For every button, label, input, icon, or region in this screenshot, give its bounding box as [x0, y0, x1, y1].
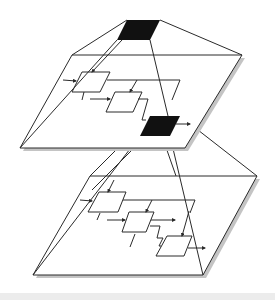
diagram-canvas: [0, 0, 275, 300]
upper-plane: [20, 55, 245, 151]
top-level-block: [117, 20, 160, 40]
footer-band: [0, 293, 275, 300]
hierarchy-diagram: [0, 0, 275, 300]
lower-plane: [33, 176, 260, 278]
